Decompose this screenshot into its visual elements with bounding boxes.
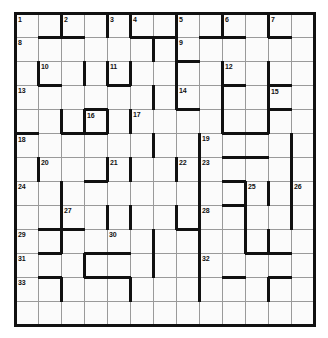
crossword-cell[interactable] [131,62,154,86]
crossword-cell[interactable] [108,206,131,230]
crossword-cell[interactable] [223,230,246,254]
crossword-cell[interactable] [85,230,108,254]
crossword-cell[interactable] [292,110,315,134]
crossword-cell[interactable] [292,302,315,326]
crossword-cell[interactable] [39,134,62,158]
crossword-cell[interactable] [246,278,269,302]
crossword-cell[interactable] [154,182,177,206]
crossword-cell[interactable] [62,182,85,206]
crossword-cell[interactable]: 30 [108,230,131,254]
crossword-cell[interactable] [269,134,292,158]
crossword-cell[interactable] [246,86,269,110]
crossword-cell[interactable] [85,14,108,38]
crossword-cell[interactable] [200,86,223,110]
crossword-cell[interactable]: 32 [200,254,223,278]
crossword-cell[interactable]: 31 [16,254,39,278]
crossword-cell[interactable] [39,182,62,206]
crossword-cell[interactable] [154,110,177,134]
crossword-cell[interactable] [39,14,62,38]
crossword-cell[interactable] [269,182,292,206]
crossword-cell[interactable] [62,278,85,302]
crossword-cell[interactable] [269,278,292,302]
crossword-cell[interactable] [292,38,315,62]
crossword-cell[interactable] [62,110,85,134]
crossword-cell[interactable] [292,254,315,278]
crossword-cell[interactable] [177,206,200,230]
crossword-cell[interactable] [62,62,85,86]
crossword-cell[interactable] [131,206,154,230]
crossword-cell[interactable] [246,134,269,158]
crossword-cell[interactable] [223,158,246,182]
crossword-cell[interactable] [62,86,85,110]
crossword-cell[interactable]: 20 [39,158,62,182]
crossword-cell[interactable] [223,182,246,206]
crossword-cell[interactable]: 14 [177,86,200,110]
crossword-cell[interactable]: 3 [108,14,131,38]
crossword-cell[interactable]: 5 [177,14,200,38]
crossword-cell[interactable]: 15 [269,86,292,110]
crossword-cell[interactable] [131,134,154,158]
crossword-cell[interactable] [200,182,223,206]
crossword-cell[interactable] [154,38,177,62]
crossword-cell[interactable] [39,278,62,302]
crossword-cell[interactable]: 25 [246,182,269,206]
crossword-cell[interactable]: 12 [223,62,246,86]
crossword-cell[interactable]: 21 [108,158,131,182]
crossword-cell[interactable] [85,254,108,278]
crossword-cell[interactable] [39,230,62,254]
crossword-cell[interactable] [108,278,131,302]
crossword-cell[interactable] [154,254,177,278]
crossword-cell[interactable] [223,206,246,230]
crossword-cell[interactable] [292,86,315,110]
crossword-cell[interactable] [131,278,154,302]
crossword-grid[interactable]: 1234567891011121314151617181920212223242… [14,12,316,327]
crossword-cell[interactable] [246,230,269,254]
crossword-cell[interactable] [223,302,246,326]
crossword-cell[interactable] [154,86,177,110]
crossword-cell[interactable] [177,182,200,206]
crossword-cell[interactable] [85,158,108,182]
crossword-cell[interactable] [269,302,292,326]
crossword-cell[interactable] [108,38,131,62]
crossword-cell[interactable] [269,62,292,86]
crossword-cell[interactable] [108,182,131,206]
crossword-cell[interactable] [292,62,315,86]
crossword-cell[interactable] [177,230,200,254]
crossword-cell[interactable] [85,38,108,62]
crossword-cell[interactable] [269,254,292,278]
crossword-cell[interactable] [62,254,85,278]
crossword-cell[interactable] [246,62,269,86]
crossword-cell[interactable] [108,110,131,134]
crossword-cell[interactable] [39,254,62,278]
crossword-cell[interactable]: 10 [39,62,62,86]
crossword-cell[interactable]: 17 [131,110,154,134]
crossword-cell[interactable] [200,110,223,134]
crossword-cell[interactable] [292,206,315,230]
crossword-cell[interactable] [223,254,246,278]
crossword-cell[interactable] [177,254,200,278]
crossword-cell[interactable] [85,206,108,230]
crossword-cell[interactable]: 26 [292,182,315,206]
crossword-cell[interactable] [39,38,62,62]
crossword-cell[interactable] [223,278,246,302]
crossword-cell[interactable]: 18 [16,134,39,158]
crossword-cell[interactable]: 8 [16,38,39,62]
crossword-cell[interactable] [16,110,39,134]
crossword-cell[interactable] [154,158,177,182]
crossword-cell[interactable]: 19 [200,134,223,158]
crossword-cell[interactable] [16,206,39,230]
crossword-cell[interactable] [154,302,177,326]
crossword-cell[interactable] [39,86,62,110]
crossword-cell[interactable] [154,14,177,38]
crossword-cell[interactable]: 13 [16,86,39,110]
crossword-cell[interactable] [108,134,131,158]
crossword-cell[interactable]: 2 [62,14,85,38]
crossword-cell[interactable] [154,62,177,86]
crossword-cell[interactable]: 9 [177,38,200,62]
crossword-cell[interactable] [269,158,292,182]
crossword-cell[interactable] [177,110,200,134]
crossword-cell[interactable] [223,38,246,62]
crossword-cell[interactable] [131,38,154,62]
crossword-cell[interactable] [131,230,154,254]
crossword-cell[interactable] [39,206,62,230]
